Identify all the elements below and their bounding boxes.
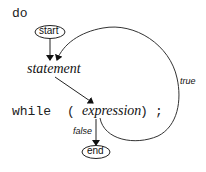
expression-node-label: expression [82,103,141,119]
true-loop-arrow [57,27,179,141]
true-edge-label: true [180,76,196,86]
start-node-label: start [39,25,58,36]
while-keyword: while [12,104,51,119]
do-keyword: do [12,6,28,21]
semicolon: ; [155,104,163,119]
statement-node-label: statement [27,61,81,77]
close-paren: ) [140,104,148,119]
false-edge-label: false [73,126,92,136]
end-node-label: end [87,145,104,156]
statement-to-expression-arrow [55,77,93,103]
open-paren: ( [67,104,75,119]
